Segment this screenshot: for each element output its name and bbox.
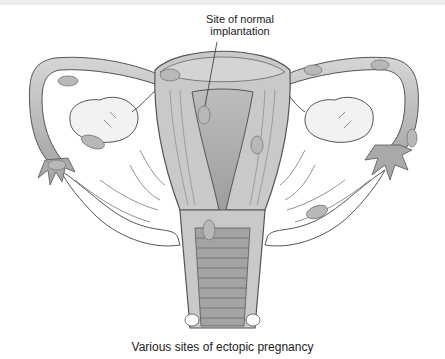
ectopic-uterine-normal [198, 106, 210, 124]
broad-ligament-left [60, 150, 180, 246]
left-ovary [70, 88, 158, 142]
broad-ligament-right [265, 150, 385, 246]
ectopic-left-fimbria [48, 160, 66, 170]
ectopic-pregnancy-illustration [0, 0, 445, 359]
figure-caption: Various sites of ectopic pregnancy [0, 340, 445, 354]
ectopic-cervical [203, 220, 215, 240]
ectopic-right-interstitial [304, 65, 322, 75]
ectopic-right-ampulla [371, 60, 389, 70]
ectopic-right-distal [407, 129, 417, 147]
right-fimbria [365, 145, 412, 180]
ectopic-left-ampulla [58, 76, 78, 86]
cervix-vagina [180, 210, 265, 328]
ectopic-left-interstitial [160, 69, 180, 81]
right-ovary [285, 88, 373, 142]
ectopic-uterine-wall [251, 136, 263, 154]
